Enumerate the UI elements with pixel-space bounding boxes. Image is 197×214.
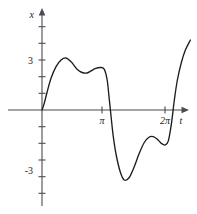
y-tick-label-3: 3 — [28, 55, 33, 66]
y-tick-label-minus-3: -3 — [25, 165, 33, 176]
x-axis-label: t — [180, 115, 183, 126]
plot-canvas: 3 -3 π 2π x t — [0, 0, 197, 214]
x-axis-arrow-icon — [182, 107, 190, 113]
graph-figure: 3 -3 π 2π x t — [0, 0, 197, 214]
y-axis-arrow-icon — [39, 8, 46, 16]
y-axis-label: x — [29, 9, 35, 20]
x-tick-label-2pi: 2π — [160, 115, 171, 126]
x-tick-label-pi: π — [99, 115, 105, 126]
